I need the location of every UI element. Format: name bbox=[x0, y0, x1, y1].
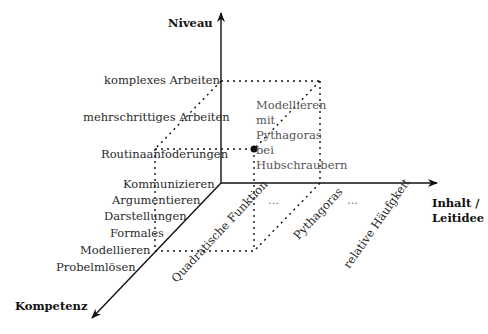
kompetenz-problemloesen: Probelmlösen bbox=[56, 262, 136, 274]
inhalt-axis-label-line1: Inhalt / bbox=[432, 198, 479, 210]
niveau-level-multistep: mehrschrittiges Arbeiten bbox=[83, 112, 230, 124]
niveau-level-complex: komplexes Arbeiten bbox=[104, 75, 220, 87]
kompetenz-darstellungen: Darstellungen bbox=[104, 211, 187, 223]
example-task-note: Modellieren mit Pythagoras bei Hubschrau… bbox=[256, 98, 338, 173]
kompetenz-kommunizieren: Kommunizieren bbox=[123, 179, 215, 191]
kompetenz-formales: Formales bbox=[110, 228, 164, 240]
inhalt-ellipsis-2: ... bbox=[347, 195, 358, 207]
competence-cube-diagram: Niveau Inhalt / Leitidee Kompetenz kompl… bbox=[0, 0, 488, 334]
kompetenz-modellieren: Modellieren bbox=[80, 245, 150, 257]
niveau-axis-label: Niveau bbox=[168, 18, 213, 30]
niveau-level-routine: Routinaanfoderungen bbox=[101, 149, 228, 161]
inhalt-ellipsis-1: ... bbox=[268, 195, 279, 207]
diagram-lines bbox=[0, 0, 488, 334]
inhalt-axis-label-line2: Leitidee bbox=[432, 213, 484, 225]
kompetenz-axis-label: Kompetenz bbox=[15, 301, 87, 313]
kompetenz-argumentieren: Argumentieren bbox=[112, 195, 201, 207]
